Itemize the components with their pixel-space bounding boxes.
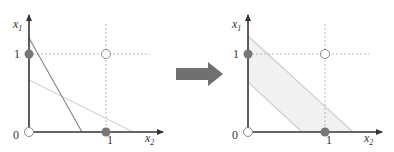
- y-axis-label: x1: [231, 17, 241, 33]
- transform-arrow-icon: [176, 62, 223, 86]
- light-separator-line: [29, 80, 133, 132]
- x-tick-label: 1: [326, 133, 332, 147]
- point-filled-y1: [244, 50, 253, 59]
- y-tick-label: 1: [233, 47, 239, 61]
- point-open-11: [321, 50, 330, 59]
- origin-label: 0: [232, 128, 238, 142]
- point-filled-y1: [25, 50, 34, 59]
- xor-diagram: x1 1 0 1 x2 x1 1 0 1 x2: [0, 0, 394, 152]
- origin-label: 0: [13, 128, 19, 142]
- y-tick-label: 1: [14, 47, 20, 61]
- left-plot: x1 1 0 1 x2: [12, 15, 163, 147]
- y-axis-label: x1: [12, 17, 22, 33]
- right-plot: x1 1 0 1 x2: [231, 15, 382, 147]
- point-open-11: [102, 50, 111, 59]
- x-axis-label: x2: [363, 131, 373, 147]
- x-axis-label: x2: [144, 131, 154, 147]
- dark-separator-line: [29, 38, 82, 132]
- point-open-origin: [244, 128, 253, 137]
- point-open-origin: [25, 128, 34, 137]
- x-tick-label: 1: [107, 133, 113, 147]
